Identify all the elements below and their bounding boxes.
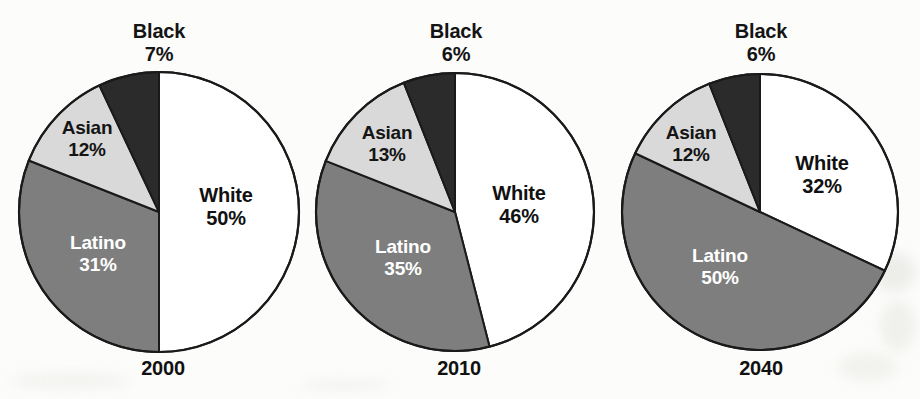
label-asian-pct: 12%: [34, 139, 140, 161]
label-black-name: Black: [99, 20, 219, 43]
label-latino-name: Latino: [40, 232, 156, 254]
label-latino-2000: Latino 31%: [40, 232, 156, 275]
label-white-name: White: [170, 184, 282, 207]
label-white-2040: White 32%: [766, 152, 878, 198]
label-latino-pct: 50%: [662, 267, 778, 289]
label-latino-name: Latino: [662, 245, 778, 267]
pie-chart-2010: Black 6% Asian 13% White 46% Latino 35% …: [300, 0, 620, 399]
label-black-pct: 6%: [396, 43, 516, 66]
label-latino-2040: Latino 50%: [662, 245, 778, 288]
pie-chart-2040: Black 6% Asian 12% White 32% Latino 50% …: [600, 0, 920, 399]
label-black-2040: Black 6%: [701, 20, 821, 66]
label-white-2010: White 46%: [463, 182, 575, 228]
label-black-pct: 7%: [99, 43, 219, 66]
label-latino-pct: 35%: [345, 258, 461, 280]
label-latino-name: Latino: [345, 236, 461, 258]
label-asian-pct: 13%: [334, 144, 440, 166]
label-asian-2010: Asian 13%: [334, 122, 440, 165]
label-asian-pct: 12%: [638, 144, 744, 166]
label-black-name: Black: [701, 20, 821, 43]
chart-year-2040: 2040: [706, 357, 816, 380]
label-white-pct: 50%: [170, 207, 282, 230]
label-white-name: White: [463, 182, 575, 205]
label-asian-2040: Asian 12%: [638, 122, 744, 165]
label-black-pct: 6%: [701, 43, 821, 66]
pie-chart-2000: Black 7% Asian 12% White 50% Latino 31% …: [0, 0, 320, 399]
label-white-2000: White 50%: [170, 184, 282, 230]
label-black-2010: Black 6%: [396, 20, 516, 66]
label-asian-name: Asian: [334, 122, 440, 144]
label-latino-pct: 31%: [40, 254, 156, 276]
label-white-name: White: [766, 152, 878, 175]
label-white-pct: 32%: [766, 175, 878, 198]
figure-canvas: Black 7% Asian 12% White 50% Latino 31% …: [0, 0, 920, 399]
label-asian-name: Asian: [638, 122, 744, 144]
label-white-pct: 46%: [463, 205, 575, 228]
label-latino-2010: Latino 35%: [345, 236, 461, 279]
label-asian-2000: Asian 12%: [34, 117, 140, 160]
chart-year-2010: 2010: [404, 357, 514, 380]
pie-slices-2040: [622, 74, 898, 350]
label-black-name: Black: [396, 20, 516, 43]
label-black-2000: Black 7%: [99, 20, 219, 66]
label-asian-name: Asian: [34, 117, 140, 139]
chart-year-2000: 2000: [108, 357, 218, 380]
